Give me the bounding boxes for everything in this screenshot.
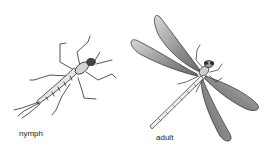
nymph-label: nymph xyxy=(19,130,43,138)
adult-label: adult xyxy=(156,134,173,142)
illustration: nymph adult xyxy=(0,0,270,156)
nymph-figure xyxy=(14,36,116,118)
adult-figure xyxy=(131,16,258,142)
